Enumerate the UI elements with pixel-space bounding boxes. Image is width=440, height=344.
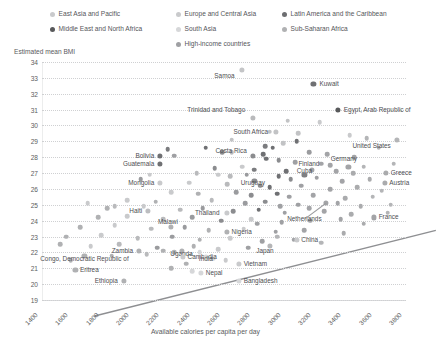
data-point[interactable]: [190, 215, 195, 220]
data-point[interactable]: [240, 164, 245, 169]
data-point-samoa[interactable]: [240, 67, 245, 72]
data-point[interactable]: [166, 147, 171, 152]
data-point[interactable]: [364, 136, 369, 141]
data-point[interactable]: [367, 177, 372, 182]
data-point[interactable]: [293, 160, 298, 165]
data-point[interactable]: [322, 209, 327, 214]
data-point[interactable]: [125, 198, 130, 203]
legend-item-latin-america-and-the-caribbean[interactable]: Latin America and the Caribbean: [282, 11, 387, 18]
data-point-vietnam[interactable]: [237, 261, 242, 266]
data-point[interactable]: [267, 185, 272, 190]
legend-item-europe-and-central-asia[interactable]: Europe and Central Asia: [176, 11, 256, 18]
data-point[interactable]: [299, 183, 304, 188]
data-point[interactable]: [343, 196, 348, 201]
data-point[interactable]: [178, 207, 183, 212]
data-point[interactable]: [270, 145, 275, 150]
data-point[interactable]: [249, 217, 254, 222]
data-point[interactable]: [287, 195, 292, 200]
data-point[interactable]: [113, 223, 118, 228]
data-point[interactable]: [361, 222, 366, 227]
data-point[interactable]: [325, 152, 330, 157]
data-point[interactable]: [296, 203, 301, 208]
data-point[interactable]: [223, 258, 228, 263]
data-point[interactable]: [231, 209, 236, 214]
data-point[interactable]: [307, 206, 312, 211]
data-point-cambodia[interactable]: [180, 255, 185, 260]
data-point-guatemala[interactable]: [158, 161, 163, 166]
data-point[interactable]: [243, 201, 248, 206]
data-point-thailand[interactable]: [224, 210, 229, 215]
data-point[interactable]: [358, 204, 363, 209]
data-point[interactable]: [319, 161, 324, 166]
data-point[interactable]: [78, 225, 83, 230]
legend-item-east-asia-and-pacific[interactable]: East Asia and Pacific: [50, 11, 120, 18]
data-point[interactable]: [302, 228, 307, 233]
data-point[interactable]: [113, 204, 118, 209]
data-point-bangladesh[interactable]: [237, 278, 242, 283]
data-point[interactable]: [216, 247, 221, 252]
data-point[interactable]: [182, 225, 187, 230]
data-point-france[interactable]: [372, 215, 377, 220]
data-point[interactable]: [379, 188, 384, 193]
data-point[interactable]: [197, 237, 202, 242]
data-point[interactable]: [246, 245, 251, 250]
data-point[interactable]: [278, 204, 283, 209]
data-point-kuwait[interactable]: [311, 82, 316, 87]
data-point-austria[interactable]: [382, 180, 387, 185]
data-point[interactable]: [392, 161, 397, 166]
data-point[interactable]: [147, 172, 152, 177]
data-point[interactable]: [307, 150, 312, 155]
data-point[interactable]: [295, 139, 300, 144]
data-point-haiti[interactable]: [146, 209, 151, 214]
data-point[interactable]: [161, 249, 166, 254]
data-point-china[interactable]: [294, 237, 299, 242]
data-point[interactable]: [328, 163, 333, 168]
data-point-ethiopia[interactable]: [121, 278, 126, 283]
data-point[interactable]: [216, 172, 221, 177]
data-point-trinidad-and-tobago[interactable]: [250, 115, 255, 120]
data-point[interactable]: [99, 233, 104, 238]
data-point[interactable]: [244, 172, 249, 177]
data-point[interactable]: [348, 133, 353, 138]
data-point[interactable]: [191, 244, 196, 249]
data-point[interactable]: [338, 217, 343, 222]
data-point[interactable]: [187, 180, 192, 185]
data-point[interactable]: [279, 220, 284, 225]
data-point[interactable]: [135, 236, 140, 241]
legend-item-high-income-countries[interactable]: High-income countries: [176, 41, 250, 48]
data-point[interactable]: [355, 185, 360, 190]
data-point[interactable]: [96, 215, 101, 220]
data-point[interactable]: [204, 145, 209, 150]
data-point[interactable]: [260, 239, 265, 244]
data-point-germany[interactable]: [346, 164, 351, 169]
data-point[interactable]: [263, 199, 268, 204]
data-point[interactable]: [284, 169, 289, 174]
data-point[interactable]: [169, 190, 174, 195]
data-point[interactable]: [213, 166, 218, 171]
data-point[interactable]: [263, 144, 268, 149]
data-point-greece[interactable]: [384, 170, 389, 175]
data-point[interactable]: [172, 153, 177, 158]
data-point[interactable]: [319, 241, 324, 246]
data-point[interactable]: [196, 191, 201, 196]
data-point[interactable]: [105, 206, 110, 211]
data-point[interactable]: [88, 244, 93, 249]
legend-item-south-asia[interactable]: South Asia: [176, 26, 216, 33]
data-point[interactable]: [349, 212, 354, 217]
data-point[interactable]: [207, 228, 212, 233]
data-point[interactable]: [340, 179, 345, 184]
data-point[interactable]: [219, 218, 224, 223]
data-point[interactable]: [328, 187, 333, 192]
data-point[interactable]: [281, 141, 286, 146]
data-point-nepal[interactable]: [199, 270, 204, 275]
legend-item-middle-east-and-north-africa[interactable]: Middle East and North Africa: [50, 26, 142, 33]
data-point[interactable]: [234, 190, 239, 195]
data-point[interactable]: [190, 269, 195, 274]
data-point[interactable]: [276, 158, 281, 163]
data-point[interactable]: [314, 176, 319, 181]
data-point[interactable]: [144, 252, 149, 257]
data-point-south-africa[interactable]: [273, 129, 278, 134]
data-point[interactable]: [184, 261, 189, 266]
data-point[interactable]: [334, 169, 339, 174]
data-point[interactable]: [317, 120, 322, 125]
